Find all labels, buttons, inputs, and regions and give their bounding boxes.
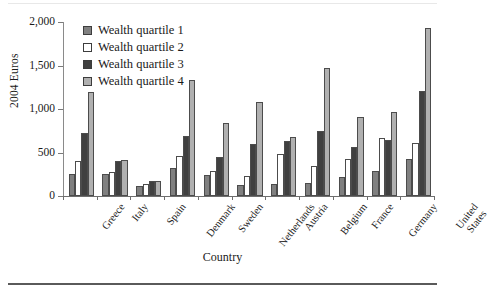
x-tick-mark [400, 196, 401, 200]
x-tick-mark [299, 196, 300, 200]
bar-group [406, 22, 431, 196]
bar-set [204, 22, 229, 196]
x-tick-label: Greece [100, 202, 127, 232]
y-tick-mark [58, 109, 63, 110]
y-tick-label: 1,500 [29, 60, 55, 72]
legend-item: Wealth quartile 1 [83, 23, 184, 38]
bar-set [237, 22, 262, 196]
legend-label-quartile-3: Wealth quartile 3 [98, 58, 184, 71]
x-tick-label: Italy [130, 202, 150, 224]
x-tick-mark [434, 196, 435, 200]
bar [324, 68, 330, 196]
x-tick-label: Belgium [339, 202, 370, 237]
bar-set [372, 22, 397, 196]
bottom-divider [8, 283, 437, 285]
bar [290, 137, 296, 196]
x-tick-label: Spain [166, 202, 189, 227]
bar [121, 160, 127, 196]
x-tick-mark [232, 196, 233, 200]
x-tick-mark [164, 196, 165, 200]
x-tick-mark [333, 196, 334, 200]
y-tick-label: 500 [38, 147, 55, 159]
legend-label-quartile-4: Wealth quartile 4 [98, 75, 184, 88]
bar [88, 92, 94, 196]
legend-swatch-quartile-4 [83, 77, 92, 86]
bar-group [339, 22, 364, 196]
top-divider [8, 3, 437, 4]
x-axis-title: Country [0, 250, 445, 265]
x-tick-mark [265, 196, 266, 200]
legend: Wealth quartile 1 Wealth quartile 2 Weal… [83, 23, 184, 89]
x-tick-label: Germany [407, 202, 439, 239]
y-tick-mark [58, 66, 63, 67]
legend-swatch-quartile-1 [83, 26, 92, 35]
x-tick-mark [198, 196, 199, 200]
bar [425, 28, 431, 196]
x-tick-mark [367, 196, 368, 200]
bar-set [271, 22, 296, 196]
x-tick-label: Denmark [205, 202, 237, 239]
x-tick-label: United States [444, 202, 489, 251]
legend-item: Wealth quartile 4 [83, 74, 184, 89]
y-axis-line [63, 22, 64, 196]
bar-set [305, 22, 330, 196]
legend-swatch-quartile-2 [83, 43, 92, 52]
legend-item: Wealth quartile 3 [83, 57, 184, 72]
bar-group [305, 22, 330, 196]
legend-item: Wealth quartile 2 [83, 40, 184, 55]
y-tick-label: 1,000 [29, 103, 55, 115]
y-tick-label: 0 [49, 190, 55, 202]
bar-set [339, 22, 364, 196]
y-tick-label: 2,000 [29, 16, 55, 28]
bar [391, 112, 397, 196]
x-tick-label: Sweden [237, 202, 266, 235]
y-tick-mark [58, 153, 63, 154]
legend-label-quartile-1: Wealth quartile 1 [98, 24, 184, 37]
bar-group [237, 22, 262, 196]
bar-group [204, 22, 229, 196]
bar [223, 123, 229, 196]
bar-set [406, 22, 431, 196]
bar [189, 80, 195, 196]
bar [155, 181, 161, 196]
bar-group [372, 22, 397, 196]
x-tick-label: France [370, 202, 396, 231]
y-axis-title: 2004 Euros [8, 53, 20, 108]
bar [256, 102, 262, 196]
x-tick-mark [130, 196, 131, 200]
legend-swatch-quartile-3 [83, 60, 92, 69]
x-tick-mark [63, 196, 64, 200]
legend-label-quartile-2: Wealth quartile 2 [98, 41, 184, 54]
bar [357, 117, 363, 196]
y-tick-mark [58, 22, 63, 23]
x-tick-mark [97, 196, 98, 200]
x-axis-line [63, 196, 434, 197]
bar-group [271, 22, 296, 196]
